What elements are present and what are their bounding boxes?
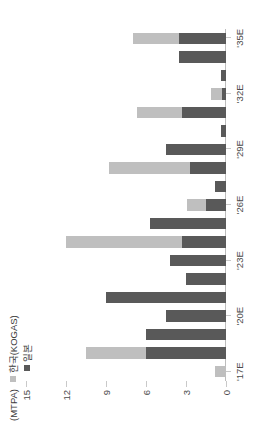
legend-label-korea: 한국(KOGAS) — [8, 315, 19, 373]
y-axis-tick — [146, 381, 147, 387]
y-axis-tick — [26, 381, 27, 387]
bar-segment — [179, 51, 226, 62]
x-axis-tick — [226, 148, 231, 149]
y-axis-tick — [106, 381, 107, 387]
bar-segment — [179, 33, 226, 44]
bar-segment — [190, 162, 226, 173]
bar-column — [166, 144, 226, 155]
square-swatch-korea — [10, 376, 16, 382]
x-axis-tick — [226, 260, 231, 261]
y-axis-tick — [186, 381, 187, 387]
x-axis-label: '29E — [234, 140, 245, 159]
bar-column — [179, 51, 226, 62]
bar-segment — [221, 70, 226, 81]
rotated-chart-wrapper: (MTPA) 한국(KOGAS) 일본 03691215 '17E'20E'23… — [0, 0, 266, 427]
bar-segment — [215, 366, 226, 377]
bar-column — [187, 199, 226, 210]
bar-column — [170, 255, 226, 266]
bar-segment — [187, 199, 206, 210]
bar-column — [86, 347, 226, 358]
bar-column — [109, 162, 226, 173]
y-axis-label: 12 — [61, 390, 72, 401]
x-axis-label: '35E — [234, 29, 245, 48]
y-axis-label: 0 — [221, 390, 232, 395]
bar-segment — [182, 236, 226, 247]
bar-segment — [86, 347, 146, 358]
bar-segment — [170, 255, 226, 266]
x-axis-label: '23E — [234, 251, 245, 270]
y-axis-label: 9 — [101, 390, 112, 395]
y-axis-tick — [226, 381, 227, 387]
bar-segment — [137, 107, 182, 118]
bar-column — [215, 366, 226, 377]
bar-segment — [166, 144, 226, 155]
bar-column — [215, 181, 226, 192]
bar-segment — [221, 125, 226, 136]
unit-label: (MTPA) — [8, 389, 20, 421]
bar-column — [221, 70, 226, 81]
x-axis-tick — [226, 315, 231, 316]
bar-segment — [150, 218, 226, 229]
bar-segment — [166, 310, 226, 321]
legend-item-korea: 한국(KOGAS) — [8, 315, 20, 382]
bar-column — [106, 292, 226, 303]
bar-column — [146, 329, 226, 340]
bar-segment — [146, 329, 226, 340]
x-axis-label: '32E — [234, 84, 245, 103]
bar-segment — [222, 88, 226, 99]
bar-segment — [182, 107, 226, 118]
bar-column — [186, 273, 226, 284]
bar-segment — [106, 292, 226, 303]
bar-segment — [146, 347, 226, 358]
bar-segment — [186, 273, 226, 284]
x-axis-tick — [226, 371, 231, 372]
bar-column — [166, 310, 226, 321]
y-axis-label: 3 — [181, 390, 192, 395]
x-axis-label: '17E — [234, 362, 245, 381]
x-axis-label: '20E — [234, 307, 245, 326]
y-axis-tick — [66, 381, 67, 387]
bar-segment — [211, 88, 222, 99]
bar-column — [221, 125, 226, 136]
plot-area: 03691215 '17E'20E'23E'26E'29E'32E'35E — [26, 29, 226, 381]
bar-segment — [215, 181, 226, 192]
x-axis-label: '26E — [234, 196, 245, 215]
bar-segment — [109, 162, 190, 173]
bar-column — [133, 33, 226, 44]
bar-column — [211, 88, 226, 99]
stacked-bar-chart: (MTPA) 한국(KOGAS) 일본 03691215 '17E'20E'23… — [0, 0, 266, 427]
bar-column — [150, 218, 226, 229]
y-axis-label: 15 — [21, 390, 32, 401]
bar-segment — [66, 236, 182, 247]
x-axis-tick — [226, 37, 231, 38]
bar-column — [66, 236, 226, 247]
y-axis-label: 6 — [141, 390, 152, 395]
bar-segment — [133, 33, 180, 44]
x-axis-tick — [226, 204, 231, 205]
x-axis-tick — [226, 93, 231, 94]
bar-segment — [206, 199, 226, 210]
bar-column — [137, 107, 226, 118]
